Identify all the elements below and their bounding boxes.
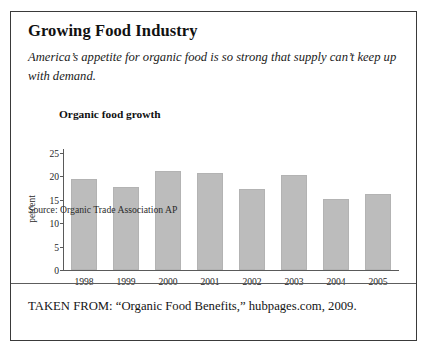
y-tick-mark [60, 153, 64, 154]
x-tick-label: 2004 [315, 276, 357, 287]
bar-2003 [281, 175, 307, 270]
section-divider [11, 283, 416, 284]
bar-2002 [239, 189, 265, 270]
bar-2000 [155, 171, 181, 270]
bar-2004 [323, 199, 349, 270]
x-tick-label: 2003 [273, 276, 315, 287]
y-tick-mark [60, 247, 64, 248]
y-tick-mark [60, 176, 64, 177]
y-tick-label: 0 [54, 265, 59, 276]
y-tick-mark [60, 270, 64, 271]
y-tick-mark [60, 223, 64, 224]
x-tick-label: 2002 [231, 276, 273, 287]
figure-title: Growing Food Industry [28, 21, 198, 41]
x-tick-label: 1998 [63, 276, 105, 287]
y-tick-label: 25 [49, 148, 59, 159]
figure-subtitle: America’s appetite for organic food is s… [28, 48, 400, 85]
figure-box: Growing Food Industry America’s appetite… [10, 11, 417, 341]
y-tick-label: 10 [49, 218, 59, 229]
bar-2001 [197, 173, 223, 270]
chart-title: Organic food growth [59, 108, 161, 120]
y-tick-label: 5 [54, 241, 59, 252]
bar-2005 [365, 194, 391, 270]
y-tick-mark [60, 200, 64, 201]
bar-1998 [71, 179, 97, 270]
bar-1999 [113, 187, 139, 270]
attribution-line: TAKEN FROM: “Organic Food Benefits,” hub… [28, 299, 357, 314]
x-tick-label: 1999 [105, 276, 147, 287]
x-tick-label: 2001 [189, 276, 231, 287]
y-tick-label: 20 [49, 171, 59, 182]
x-axis-line [63, 270, 399, 271]
x-tick-label: 2000 [147, 276, 189, 287]
bar-chart: Organic food growth percent 0510152025 1… [11, 108, 416, 288]
source-note: Source: Organic Trade Association AP [28, 204, 177, 215]
x-tick-label: 2005 [357, 276, 399, 287]
